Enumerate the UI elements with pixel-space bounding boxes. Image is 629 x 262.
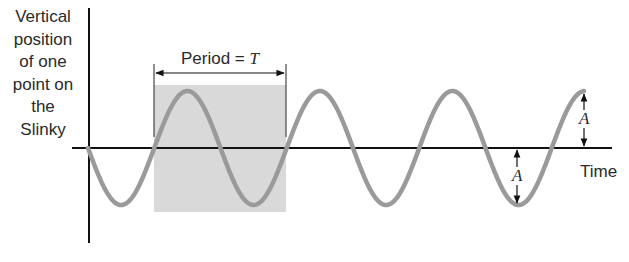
y-label-line: the	[0, 96, 86, 119]
y-label-line: position	[0, 29, 86, 52]
y-label-line: Slinky	[0, 119, 86, 142]
x-axis-label: Time	[580, 162, 617, 182]
amplitude-label-crest: A	[579, 110, 589, 128]
amplitude-label-trough: A	[512, 167, 522, 185]
y-label-line: Vertical	[0, 6, 86, 29]
period-label-text: Period =	[181, 49, 250, 68]
y-label-line: of one	[0, 51, 86, 74]
y-axis-label: Vertical position of one point on the Sl…	[0, 6, 86, 141]
period-label: Period = T	[154, 49, 286, 69]
y-label-line: point on	[0, 74, 86, 97]
period-symbol: T	[250, 49, 259, 68]
wave-diagram	[0, 0, 629, 262]
